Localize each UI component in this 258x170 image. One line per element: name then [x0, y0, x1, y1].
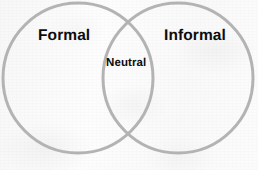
venn-diagram: Formal Informal Neutral	[0, 0, 258, 170]
venn-circles-svg	[0, 0, 258, 170]
venn-circle-informal	[103, 3, 253, 153]
venn-label-informal: Informal	[164, 27, 226, 45]
venn-label-neutral: Neutral	[106, 57, 146, 69]
venn-label-formal: Formal	[38, 27, 90, 45]
venn-circle-formal	[3, 3, 153, 153]
